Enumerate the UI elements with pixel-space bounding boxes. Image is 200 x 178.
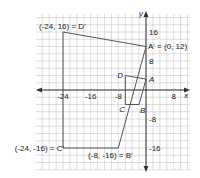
y-tick-label: -8 <box>149 115 157 124</box>
x-tick-label: -16 <box>85 92 97 101</box>
y-axis-label: y <box>138 9 144 18</box>
vertex-label-d-prime: (-24, 16) = D' <box>39 22 86 31</box>
x-tick-label: 8 <box>171 92 176 101</box>
vertex-label-c: C <box>119 105 125 114</box>
x-axis-label: x <box>183 91 189 100</box>
y-tick-label: -16 <box>149 144 161 153</box>
vertex-label-b: B <box>140 106 146 115</box>
y-axis-arrow-down-icon <box>144 166 149 172</box>
y-tick-label: 16 <box>149 28 158 37</box>
y-tick-label: 8 <box>149 57 154 66</box>
vertex-label-c-prime: (-24, -16) = C' <box>15 144 65 153</box>
vertex-label-a: A <box>148 75 154 84</box>
x-tick-label: -8 <box>115 92 123 101</box>
vertex-label-a-prime: A' = (0, 12) <box>148 42 187 51</box>
x-axis-arrow-left-icon <box>36 88 42 93</box>
vertex-label-b-prime: (-8, -16) = B' <box>88 151 133 160</box>
coordinate-plane: x y -24-16-88168-8-16 A' = (0, 12)(-8, -… <box>0 0 200 178</box>
vertex-label-d: D <box>117 71 123 80</box>
y-axis-arrow-up-icon <box>144 11 149 17</box>
